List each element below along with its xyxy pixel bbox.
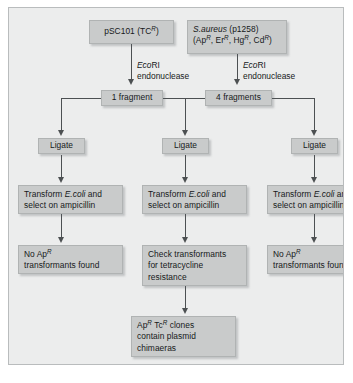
arrowhead-ligate-left: [58, 130, 64, 136]
flowchart-figure: pSC101 (TCR) S.aureus (p1258) (ApR, ErR,…: [8, 7, 344, 365]
transform-middle-line1: Transform E.coli and: [148, 189, 241, 200]
result-left-line2: transformants found: [24, 260, 117, 271]
arrowhead-conclusion: [182, 308, 188, 314]
node-ligate-middle: Ligate: [162, 138, 209, 154]
node-transform-right: Transform E.coli and select on ampicilli…: [267, 185, 344, 214]
caption-enzyme-right: EcoRI endonuclease: [243, 60, 295, 82]
node-ligate-left: Ligate: [38, 138, 85, 154]
arrowhead-transform-left: [58, 177, 64, 183]
node-fragments-1: 1 fragment: [101, 90, 163, 106]
connector-ligate-transform-left: [61, 155, 62, 179]
node-result-left: No ApR transformants found: [18, 245, 123, 274]
transform-left-line1: Transform E.coli and: [24, 189, 117, 200]
node-source-saureus: S.aureus (p1258) (ApR, ErR, HgR, CdR): [187, 20, 287, 54]
arrowhead-result-middle: [182, 237, 188, 243]
result-middle-line3: resistance: [148, 272, 241, 283]
connector-ligate-transform-middle: [185, 155, 186, 179]
result-middle-line1: Check transformants: [148, 249, 241, 260]
conclusion-line2: contain plasmid: [137, 331, 230, 342]
arrowhead-ligate-right: [311, 130, 317, 136]
connector-bus-middle: [162, 98, 206, 99]
connector-transform-result-left: [61, 214, 62, 239]
connector-drop-right: [314, 98, 315, 132]
node-result-middle: Check transformants for tetracycline res…: [142, 245, 247, 286]
node-source-pSC101: pSC101 (TCR): [89, 20, 174, 44]
transform-middle-line2: select on ampicillin: [148, 200, 241, 211]
conclusion-line3: chimaeras: [137, 343, 230, 354]
connector-drop-left: [61, 98, 62, 132]
result-left-line1: No ApR: [24, 249, 117, 260]
conclusion-line1: ApR TcR clones: [137, 320, 230, 331]
connector-bus-left: [61, 98, 102, 99]
connector-result-conclusion: [185, 286, 186, 310]
connector-bus-right: [271, 98, 315, 99]
node-result-right: No ApR transformants found: [267, 245, 344, 274]
arrowhead-result-left: [58, 237, 64, 243]
node-transform-left: Transform E.coli and select on ampicilli…: [18, 185, 123, 214]
result-right-line1: No ApR: [273, 249, 344, 260]
arrowhead-result-right: [311, 237, 317, 243]
connector-drop-middle: [185, 98, 186, 132]
arrowhead-transform-right: [311, 177, 317, 183]
connector-transform-result-middle: [185, 214, 186, 239]
node-transform-middle: Transform E.coli and select on ampicilli…: [142, 185, 247, 214]
arrowhead-ligate-middle: [182, 130, 188, 136]
result-middle-line2: for tetracycline: [148, 260, 241, 271]
arrowhead-digest-right: [234, 79, 240, 85]
node-conclusion: ApR TcR clones contain plasmid chimaeras: [131, 316, 236, 357]
arrowhead-digest-left: [128, 79, 134, 85]
caption-enzyme-left: EcoRI endonuclease: [137, 60, 189, 82]
node-fragments-4: 4 fragments: [205, 90, 272, 106]
connector-digest-left: [131, 44, 132, 81]
source-right-line2: (ApR, ErR, HgR, CdR): [193, 35, 281, 46]
connector-transform-result-right: [314, 214, 315, 239]
transform-left-line2: select on ampicillin: [24, 200, 117, 211]
source-left-text: pSC101 (TCR): [104, 26, 159, 37]
connector-digest-right: [237, 54, 238, 81]
transform-right-line1: Transform E.coli and: [273, 189, 344, 200]
arrowhead-transform-middle: [182, 177, 188, 183]
connector-ligate-transform-right: [314, 155, 315, 179]
node-ligate-right: Ligate: [291, 138, 338, 154]
result-right-line2: transformants found: [273, 260, 344, 271]
transform-right-line2: select on ampicillin: [273, 200, 344, 211]
